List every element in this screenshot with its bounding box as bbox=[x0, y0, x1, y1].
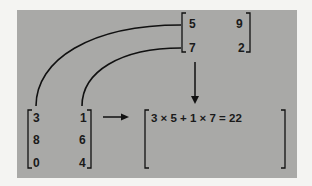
down-arrow-icon bbox=[191, 62, 199, 104]
matrix-b-entry-r2c2: 2 bbox=[238, 42, 245, 54]
matrix-a-entry-r3c1: 0 bbox=[33, 157, 40, 169]
curve-a11-to-b11 bbox=[36, 25, 181, 106]
curve-a12-to-b21 bbox=[82, 48, 181, 106]
matrix-a-entry-r1c2: 1 bbox=[80, 112, 87, 124]
matrix-a-entry-r2c1: 8 bbox=[33, 134, 40, 146]
result-entry-expression: 3 × 5 + 1 × 7 = 22 bbox=[151, 112, 242, 124]
matrix-b-entry-r1c2: 9 bbox=[236, 18, 243, 30]
matrix-b-entry-r2c1: 7 bbox=[189, 42, 196, 54]
diagram-graphics bbox=[0, 0, 312, 186]
matrix-b-entry-r1c1: 5 bbox=[189, 18, 196, 30]
right-arrow-icon bbox=[103, 114, 129, 121]
matrix-a-entry-r3c2: 4 bbox=[79, 157, 86, 169]
matrix-a-entry-r1c1: 3 bbox=[33, 112, 40, 124]
matrix-a-entry-r2c2: 6 bbox=[79, 134, 86, 146]
